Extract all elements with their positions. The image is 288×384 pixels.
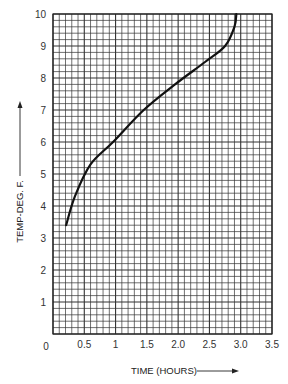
x-tick-label: 1.5 <box>140 339 154 350</box>
y-tick-label: 2 <box>40 265 46 276</box>
y-tick-label: 8 <box>40 73 46 84</box>
y-tick-label: 10 <box>35 9 47 20</box>
x-tick-label: 2.0 <box>171 339 185 350</box>
y-tick-label: 9 <box>40 41 46 52</box>
x-tick-label: 3.5 <box>265 339 279 350</box>
x-axis-arrow-icon <box>232 369 239 374</box>
x-axis-title: TIME (HOURS) <box>131 365 239 376</box>
x-tick-label: 2.5 <box>202 339 216 350</box>
x-tick-label: 3.0 <box>234 339 248 350</box>
y-axis-arrow-icon <box>18 101 23 108</box>
y-axis-ticks: 12345678910 <box>35 9 47 308</box>
y-tick-label: 1 <box>40 297 46 308</box>
y-tick-label: 4 <box>40 201 46 212</box>
x-tick-label: 0.5 <box>77 339 91 350</box>
y-axis-title: TEMP-DEG. F. <box>14 101 25 243</box>
y-axis-label: TEMP-DEG. F. <box>14 180 25 243</box>
x-tick-label: 1 <box>113 339 119 350</box>
y-tick-label: 3 <box>40 233 46 244</box>
origin-label: 0 <box>43 341 49 352</box>
x-axis-label: TIME (HOURS) <box>131 365 197 376</box>
y-tick-label: 5 <box>40 169 46 180</box>
x-axis-ticks: 0.511.52.02.53.03.5 <box>77 339 279 350</box>
y-tick-label: 7 <box>40 105 46 116</box>
y-tick-label: 6 <box>40 137 46 148</box>
temperature-time-chart: 0.511.52.02.53.03.5 12345678910 0 TEMP-D… <box>0 0 288 384</box>
